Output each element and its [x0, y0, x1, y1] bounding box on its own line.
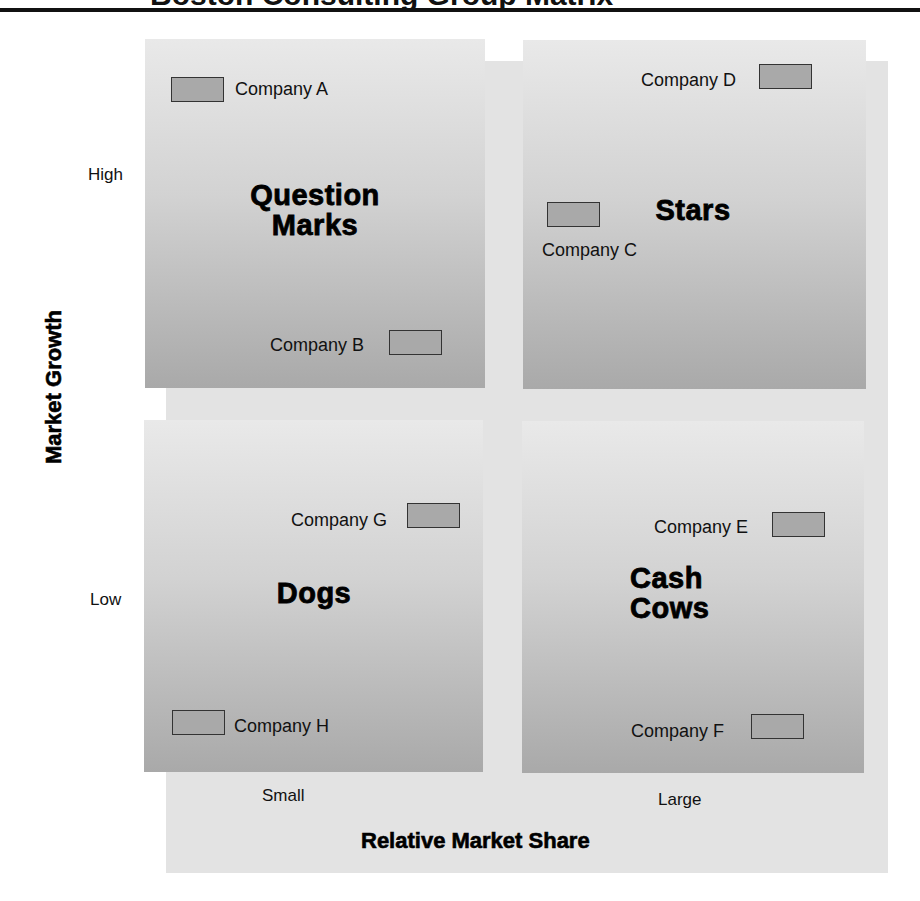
- company-h-marker: [172, 710, 225, 735]
- company-a-label: Company A: [235, 79, 328, 100]
- title-rule-divider: [0, 8, 920, 12]
- y-axis-tick-high: High: [88, 165, 123, 185]
- company-a-marker: [171, 77, 224, 102]
- x-axis-tick-large: Large: [658, 790, 701, 810]
- quadrant-title-dogs: Dogs: [254, 578, 374, 608]
- company-g-label: Company G: [291, 510, 387, 531]
- quadrant-title-line-1: Cash: [630, 563, 750, 593]
- company-f-marker: [751, 714, 804, 739]
- company-f-label: Company F: [631, 721, 724, 742]
- company-b-label: Company B: [270, 335, 364, 356]
- quadrant-title-line-2: Marks: [225, 210, 405, 240]
- quadrant-stars: Company D Stars Company C: [523, 40, 866, 389]
- company-b-marker: [389, 330, 442, 355]
- company-e-marker: [772, 512, 825, 537]
- quadrant-title-line-2: Cows: [630, 593, 750, 623]
- company-d-label: Company D: [641, 70, 736, 91]
- company-d-marker: [759, 64, 812, 89]
- y-axis-tick-low: Low: [90, 590, 121, 610]
- y-axis-title: Market Growth: [41, 310, 67, 464]
- x-axis-tick-small: Small: [262, 786, 305, 806]
- quadrant-title-stars: Stars: [633, 195, 753, 225]
- x-axis-title: Relative Market Share: [361, 828, 590, 854]
- quadrant-title-question-marks: Question Marks: [225, 180, 405, 240]
- quadrant-cash-cows: Company E Cash Cows Company F: [522, 421, 864, 773]
- company-h-label: Company H: [234, 716, 329, 737]
- company-g-marker: [407, 503, 460, 528]
- quadrant-question-marks: Company A Question Marks Company B: [145, 39, 485, 388]
- quadrant-title-line-1: Question: [225, 180, 405, 210]
- company-c-marker: [547, 202, 600, 227]
- quadrant-title-cash-cows: Cash Cows: [630, 563, 750, 623]
- company-e-label: Company E: [654, 517, 748, 538]
- company-c-label: Company C: [542, 240, 637, 261]
- page-title-partial: Boston Consulting Group Matrix: [0, 0, 920, 8]
- quadrant-dogs: Company G Dogs Company H: [144, 420, 483, 772]
